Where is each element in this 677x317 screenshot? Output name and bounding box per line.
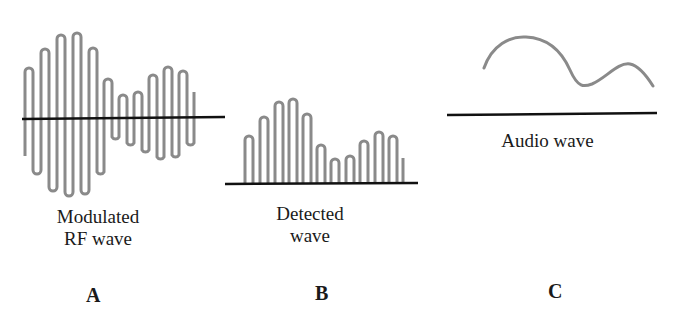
detected-pulses-path (245, 99, 403, 184)
panel-b-baseline (225, 183, 418, 184)
rf-wave-path (25, 33, 194, 196)
panel-a-caption: Modulated RF wave (28, 206, 168, 250)
panel-a-modulated-wave (22, 33, 225, 196)
panel-c-baseline (447, 113, 657, 115)
panel-b-detected-wave (225, 99, 418, 184)
panel-b-caption-line2: wave (255, 225, 365, 247)
panel-c-caption: Audio wave (480, 130, 615, 152)
panel-a-letter: A (86, 284, 100, 307)
panel-c-letter: C (548, 280, 562, 303)
panel-b-caption-line1: Detected (255, 203, 365, 225)
panel-c-audio-wave (447, 37, 657, 115)
panel-b-caption: Detected wave (255, 203, 365, 247)
panel-a-caption-line1: Modulated (28, 206, 168, 228)
panel-b-letter: B (315, 282, 328, 305)
panel-a-caption-line2: RF wave (28, 228, 168, 250)
audio-curve-path (484, 37, 653, 86)
diagram-canvas (0, 0, 677, 317)
panel-c-caption-line1: Audio wave (480, 130, 615, 152)
